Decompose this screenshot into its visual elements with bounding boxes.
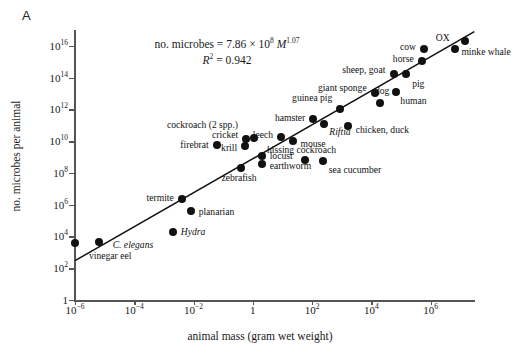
y-tick-label: 108 <box>28 167 68 179</box>
y-tick-mark <box>69 109 74 110</box>
y-tick-label: 106 <box>28 199 68 211</box>
y-tick-label: 104 <box>28 230 68 242</box>
data-point <box>451 45 459 53</box>
data-point-label: firebrat <box>180 140 208 150</box>
data-point <box>95 238 103 246</box>
data-point <box>241 142 249 150</box>
data-point <box>169 228 177 236</box>
x-tick-label: 10−2 <box>184 304 203 316</box>
data-point <box>390 70 398 78</box>
data-point <box>213 141 221 149</box>
y-tick-label: 102 <box>28 262 68 274</box>
data-point <box>258 152 266 160</box>
figure-panel-a: A no. microbes = 7.86 × 108 M1.07 R2 = 0… <box>0 0 520 357</box>
data-point-label: krill <box>221 143 237 153</box>
data-point-label: giant sponge <box>318 83 367 93</box>
data-point <box>402 70 410 78</box>
data-point-label: pig <box>412 79 424 89</box>
data-point <box>309 115 317 123</box>
data-point-label: earthworm <box>270 161 312 171</box>
data-point-label: guinea pig <box>292 93 332 103</box>
y-tick-mark <box>69 236 74 237</box>
data-point <box>320 120 328 128</box>
x-tick-label: 1 <box>250 304 256 316</box>
data-point <box>376 99 384 107</box>
x-tick-label: 106 <box>423 304 438 316</box>
data-point-label: planarian <box>199 207 235 217</box>
data-point-label: C. elegans <box>113 240 154 250</box>
data-point-label: sheep, goat <box>342 65 385 75</box>
data-point-label: Riftia <box>329 127 350 137</box>
y-tick-label: 1014 <box>28 72 68 84</box>
data-point <box>242 135 250 143</box>
data-point-label: sea cucumber <box>329 165 381 175</box>
data-point-label: horse <box>393 54 414 64</box>
data-point-label: chicken, duck <box>356 125 409 135</box>
data-point <box>178 195 186 203</box>
y-tick-mark <box>69 46 74 47</box>
y-axis-title: no. microbes per animal <box>10 26 22 286</box>
y-tick-label: 1012 <box>28 103 68 115</box>
data-point <box>187 207 195 215</box>
y-tick-label: 1 <box>28 294 68 306</box>
x-tick-label: 102 <box>305 304 320 316</box>
plot-area: vinegar eelC. elegansHydraplanariantermi… <box>75 30 475 300</box>
data-point-label: dog <box>375 86 389 96</box>
y-tick-label: 1010 <box>28 135 68 147</box>
x-tick-label: 10−6 <box>66 304 85 316</box>
data-point <box>71 239 79 247</box>
data-point <box>237 164 245 172</box>
data-point-label: Hydra <box>181 227 206 237</box>
data-point-label: zebrafish <box>221 173 256 183</box>
data-point-label: termite <box>147 193 174 203</box>
y-tick-label: 1016 <box>28 40 68 52</box>
data-point <box>392 88 400 96</box>
panel-letter: A <box>22 8 31 23</box>
data-point-label: cricket <box>212 130 238 140</box>
data-point <box>461 37 469 45</box>
x-tick-label: 104 <box>364 304 379 316</box>
data-point <box>420 45 428 53</box>
data-point <box>336 105 344 113</box>
y-tick-mark <box>69 141 74 142</box>
data-point-label: cow <box>400 42 416 52</box>
x-axis-title: animal mass (gram wet weight) <box>0 330 520 342</box>
data-point-label: OX <box>436 33 450 43</box>
y-tick-mark <box>69 78 74 79</box>
data-point-label: vinegar eel <box>89 251 131 261</box>
data-point-label: leech <box>253 130 273 140</box>
data-point-label: hissing cockroach <box>267 145 336 155</box>
data-point <box>258 160 266 168</box>
data-point-label: human <box>400 96 426 106</box>
data-point <box>277 133 285 141</box>
data-point-label: hamster <box>275 113 305 123</box>
data-point-label: minke whale <box>461 47 510 57</box>
y-tick-mark <box>69 268 74 269</box>
y-tick-mark <box>69 205 74 206</box>
data-point-label: cockroach (2 spp.) <box>167 120 238 130</box>
y-tick-mark <box>69 173 74 174</box>
y-tick-mark <box>69 300 74 301</box>
data-point <box>418 57 426 65</box>
x-tick-label: 10−4 <box>125 304 144 316</box>
data-point <box>319 157 327 165</box>
